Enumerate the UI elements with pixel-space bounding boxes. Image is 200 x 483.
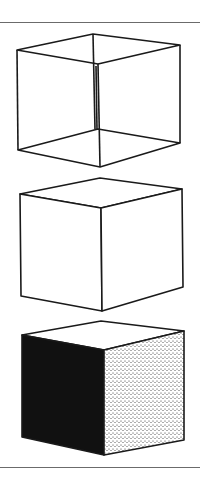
- cube-figure: [0, 0, 200, 483]
- shaded-cube: [22, 321, 184, 455]
- outline-cube: [20, 178, 183, 311]
- wireframe-cube: [17, 34, 180, 167]
